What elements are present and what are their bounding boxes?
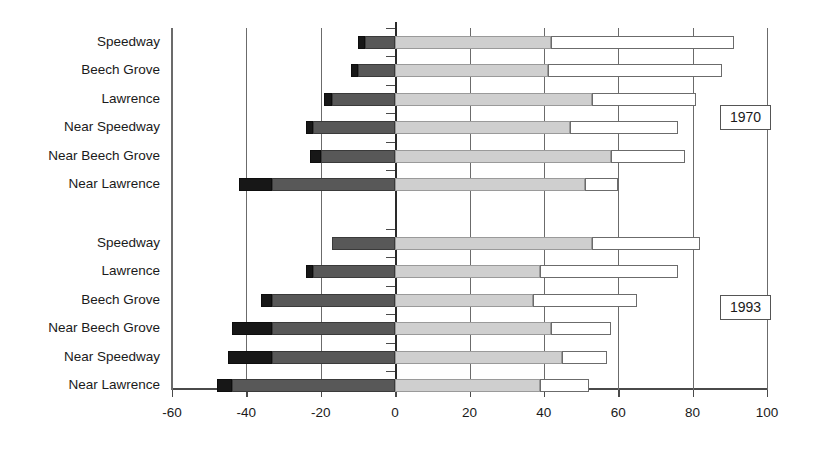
left-axis-spine bbox=[171, 28, 172, 390]
category-label: Beech Grove bbox=[81, 63, 160, 77]
bar-segment-black bbox=[239, 178, 272, 191]
bar-segment-white bbox=[540, 265, 678, 278]
bar-segment-black bbox=[228, 351, 273, 364]
bar-segment-white bbox=[540, 379, 588, 392]
gridline--20 bbox=[321, 28, 322, 390]
bar-segment-black bbox=[261, 294, 272, 307]
bar-chart: SpeedwayBeech GroveLawrenceNear Speedway… bbox=[0, 0, 819, 455]
year-badge-1993: 1993 bbox=[720, 295, 771, 320]
bar-row bbox=[172, 322, 767, 335]
bar-row bbox=[172, 178, 767, 191]
bar-row bbox=[172, 237, 767, 250]
bar-segment-white bbox=[533, 294, 637, 307]
bar-segment-dark-gray bbox=[313, 265, 395, 278]
category-label: Near Speedway bbox=[64, 120, 160, 134]
bar-segment-light-gray bbox=[395, 93, 592, 106]
bar-segment-white bbox=[551, 322, 611, 335]
y-tick bbox=[386, 343, 395, 344]
y-tick bbox=[386, 85, 395, 86]
bar-segment-white bbox=[551, 36, 733, 49]
category-label: Near Beech Grove bbox=[48, 321, 160, 335]
x-tick-label: 100 bbox=[756, 405, 779, 420]
bar-row bbox=[172, 150, 767, 163]
bar-segment-dark-gray bbox=[272, 322, 395, 335]
bar-segment-black bbox=[306, 265, 313, 278]
bar-row bbox=[172, 294, 767, 307]
bar-segment-dark-gray bbox=[272, 178, 395, 191]
bar-segment-black bbox=[217, 379, 232, 392]
bar-segment-black bbox=[351, 64, 358, 77]
gridline-60 bbox=[618, 28, 619, 390]
bar-segment-black bbox=[324, 93, 331, 106]
x-tick-100 bbox=[767, 390, 768, 397]
category-label: Near Lawrence bbox=[68, 378, 160, 392]
bar-segment-white bbox=[592, 93, 696, 106]
category-label: Beech Grove bbox=[81, 293, 160, 307]
y-tick bbox=[386, 371, 395, 372]
bar-row bbox=[172, 93, 767, 106]
bar-segment-dark-gray bbox=[332, 93, 395, 106]
y-tick bbox=[386, 286, 395, 287]
y-tick bbox=[386, 56, 395, 57]
y-tick bbox=[386, 142, 395, 143]
bar-segment-white bbox=[562, 351, 607, 364]
bar-segment-light-gray bbox=[395, 150, 611, 163]
bar-segment-white bbox=[570, 121, 678, 134]
bar-segment-white bbox=[548, 64, 723, 77]
y-tick bbox=[386, 257, 395, 258]
bar-segment-white bbox=[585, 178, 618, 191]
bar-segment-light-gray bbox=[395, 379, 540, 392]
y-tick bbox=[386, 229, 395, 230]
bar-segment-white bbox=[611, 150, 685, 163]
x-tick-label: -60 bbox=[162, 405, 182, 420]
bar-segment-light-gray bbox=[395, 237, 592, 250]
bar-segment-dark-gray bbox=[313, 121, 395, 134]
y-tick bbox=[386, 170, 395, 171]
bar-segment-dark-gray bbox=[272, 351, 395, 364]
gridline-40 bbox=[544, 28, 545, 390]
bar-segment-light-gray bbox=[395, 36, 551, 49]
category-label: Lawrence bbox=[101, 92, 160, 106]
bar-segment-dark-gray bbox=[321, 150, 395, 163]
bar-segment-light-gray bbox=[395, 178, 585, 191]
x-tick-label: 0 bbox=[391, 405, 399, 420]
y-tick bbox=[386, 28, 395, 29]
gridline-80 bbox=[693, 28, 694, 390]
x-tick-label: -20 bbox=[311, 405, 331, 420]
bar-segment-black bbox=[358, 36, 365, 49]
bar-row bbox=[172, 379, 767, 392]
bar-segment-white bbox=[592, 237, 700, 250]
bar-row bbox=[172, 351, 767, 364]
bar-segment-dark-gray bbox=[272, 294, 395, 307]
category-label: Speedway bbox=[97, 35, 160, 49]
gridline--40 bbox=[246, 28, 247, 390]
y-tick bbox=[386, 314, 395, 315]
bar-row bbox=[172, 64, 767, 77]
bar-segment-black bbox=[306, 121, 313, 134]
bar-segment-dark-gray bbox=[232, 379, 396, 392]
bar-segment-light-gray bbox=[395, 265, 540, 278]
bar-row bbox=[172, 36, 767, 49]
x-tick-label: 20 bbox=[462, 405, 477, 420]
gridline-20 bbox=[470, 28, 471, 390]
year-badge-1970: 1970 bbox=[720, 105, 771, 130]
category-label: Lawrence bbox=[101, 264, 160, 278]
bar-segment-light-gray bbox=[395, 121, 570, 134]
x-tick-label: -40 bbox=[237, 405, 257, 420]
plot-area: -60-40-20020406080100 bbox=[172, 28, 767, 390]
bar-segment-light-gray bbox=[395, 294, 533, 307]
x-tick-label: 40 bbox=[536, 405, 551, 420]
gridline-100 bbox=[767, 28, 768, 390]
bar-segment-black bbox=[310, 150, 321, 163]
category-label-column: SpeedwayBeech GroveLawrenceNear Speedway… bbox=[0, 28, 160, 390]
category-label: Near Lawrence bbox=[68, 177, 160, 191]
y-tick bbox=[386, 113, 395, 114]
bar-segment-dark-gray bbox=[332, 237, 395, 250]
bar-segment-dark-gray bbox=[365, 36, 395, 49]
category-label: Near Beech Grove bbox=[48, 149, 160, 163]
category-label: Near Speedway bbox=[64, 350, 160, 364]
x-tick-label: 60 bbox=[611, 405, 626, 420]
bar-row bbox=[172, 265, 767, 278]
category-label: Speedway bbox=[97, 236, 160, 250]
x-tick-label: 80 bbox=[685, 405, 700, 420]
